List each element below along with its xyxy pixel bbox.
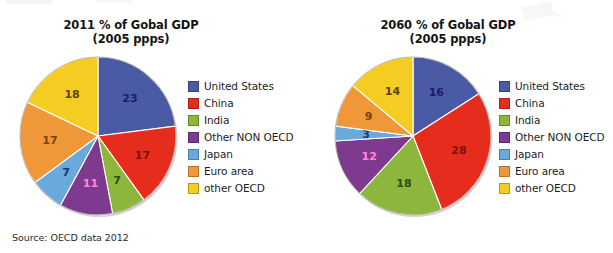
legend-label: Euro area [204,165,254,177]
legend-label: China [515,97,545,109]
legend-swatch-united-states-icon [499,81,510,92]
pie-slice-value-label: 14 [385,85,401,98]
pie-slice-value-label: 9 [365,110,373,123]
chart-title-2011: 2011 % of Gobal GDP (2005 ppps) [0,18,284,46]
legend-swatch-japan-icon [188,149,199,160]
pie-2011: 231771171718 [18,55,178,220]
pie-slice-value-label: 18 [396,177,411,190]
legend-swatch-other-oecd-icon [188,183,199,194]
pie-slice-value-label: 17 [135,149,150,162]
legend-swatch-japan-icon [499,149,510,160]
legend-label: Euro area [515,165,565,177]
chart-subtitle-2011: (2005 ppps) [0,32,284,46]
pie-chart-2060-panel: 2060 % of Gobal GDP (2005 ppps) 16281812… [307,0,613,253]
legend-item[interactable]: United States [188,78,293,94]
legend-swatch-china-icon [499,98,510,109]
pie-slice-value-label: 23 [122,92,137,105]
legend-item[interactable]: Japan [188,146,293,162]
legend-label: other OECD [204,182,265,194]
source-note: Source: OECD data 2012 [12,232,129,243]
legend-label: other OECD [515,182,576,194]
legend-item[interactable]: other OECD [188,180,293,196]
pie-slice-value-label: 17 [42,134,57,147]
chart-title-2060-text: 2060 % of Gobal GDP [380,18,515,32]
legend-item[interactable]: Japan [499,146,604,162]
pie-2060: 162818123914 [333,55,493,220]
legend-item[interactable]: India [499,112,604,128]
pie-svg-2060: 162818123914 [333,55,493,220]
pie-slice-value-label: 18 [64,88,79,101]
legend-swatch-other-non-oecd-icon [188,132,199,143]
legend-label: Japan [204,148,233,160]
legend-label: Japan [515,148,544,160]
legend-item[interactable]: Other NON OECD [499,129,604,145]
pie-slice-value-label: 11 [83,177,98,190]
legend-label: United States [204,80,274,92]
legend-2060: United StatesChinaIndiaOther NON OECDJap… [499,78,604,197]
legend-swatch-india-icon [499,115,510,126]
legend-swatch-euro-area-icon [188,166,199,177]
legend-item[interactable]: India [188,112,293,128]
pie-svg-2011: 231771171718 [18,55,178,220]
legend-item[interactable]: China [188,95,293,111]
legend-2011: United StatesChinaIndiaOther NON OECDJap… [188,78,293,197]
legend-swatch-other-oecd-icon [499,183,510,194]
legend-label: China [204,97,234,109]
legend-swatch-china-icon [188,98,199,109]
legend-item[interactable]: Other NON OECD [188,129,293,145]
legend-label: United States [515,80,585,92]
pie-chart-2011-panel: 2011 % of Gobal GDP (2005 ppps) 23177117… [0,0,306,253]
legend-label: India [515,114,540,126]
legend-item[interactable]: Euro area [188,163,293,179]
legend-label: Other NON OECD [204,131,293,143]
legend-swatch-united-states-icon [188,81,199,92]
pie-slice-value-label: 7 [62,166,70,179]
pie-slice-value-label: 7 [113,174,121,187]
legend-item[interactable]: China [499,95,604,111]
legend-item[interactable]: Euro area [499,163,604,179]
chart-title-2060: 2060 % of Gobal GDP (2005 ppps) [295,18,601,46]
pie-slice-value-label: 12 [362,150,377,163]
legend-label: Other NON OECD [515,131,604,143]
legend-label: India [204,114,229,126]
chart-title-2011-text: 2011 % of Gobal GDP [63,18,198,32]
pie-slice-value-label: 28 [451,144,466,157]
legend-swatch-other-non-oecd-icon [499,132,510,143]
legend-item[interactable]: United States [499,78,604,94]
legend-item[interactable]: other OECD [499,180,604,196]
chart-subtitle-2060: (2005 ppps) [295,32,601,46]
charts-row: 2011 % of Gobal GDP (2005 ppps) 23177117… [0,0,613,253]
pie-slice-value-label: 16 [429,86,445,99]
legend-swatch-euro-area-icon [499,166,510,177]
legend-swatch-india-icon [188,115,199,126]
